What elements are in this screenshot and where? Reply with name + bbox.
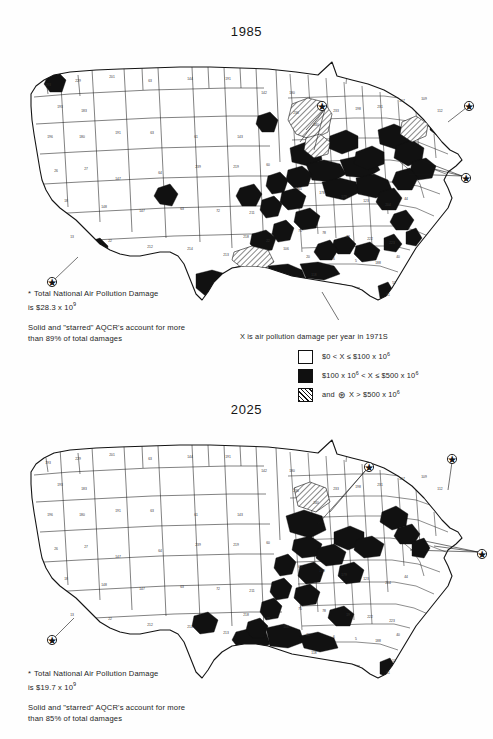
legend-heading: X is air pollution damage per year in 19… (240, 332, 493, 341)
legend-label-high-text: X > $500 x 10 (349, 391, 397, 400)
footnote-spacer (28, 693, 278, 702)
svg-text:63: 63 (150, 131, 154, 135)
svg-text:223: 223 (389, 619, 395, 623)
svg-text:218: 218 (243, 235, 249, 239)
svg-text:142: 142 (261, 91, 267, 95)
svg-text:233: 233 (333, 487, 339, 491)
svg-text:118: 118 (311, 273, 316, 277)
svg-text:180: 180 (79, 135, 85, 139)
svg-text:19: 19 (346, 235, 350, 239)
svg-text:239: 239 (195, 165, 201, 169)
svg-text:106: 106 (283, 247, 289, 251)
svg-text:19: 19 (346, 613, 350, 617)
svg-text:198: 198 (355, 485, 361, 489)
map-title-2025: 2025 (0, 400, 493, 420)
svg-text:★: ★ (366, 463, 372, 472)
svg-text:212: 212 (147, 245, 153, 249)
footnote-2025: *Total National Air Pollution Damage is … (28, 668, 278, 724)
legend-label-mid: $100 x 106 < X ≤ $500 x 106 (322, 370, 419, 380)
svg-text:78: 78 (322, 609, 326, 613)
us-aqcr-map-2025: ★ ★ ★ ★ 193229 (0, 420, 493, 698)
svg-text:236: 236 (293, 489, 299, 493)
svg-text:118: 118 (311, 651, 316, 655)
svg-text:5: 5 (355, 259, 357, 263)
svg-text:239: 239 (195, 543, 201, 547)
svg-text:183: 183 (81, 487, 87, 491)
svg-text:211: 211 (249, 211, 254, 215)
svg-text:22: 22 (108, 617, 112, 621)
legend-label-mid-text-b: < X ≤ $500 x 10 (359, 372, 415, 381)
svg-text:213: 213 (223, 253, 229, 257)
svg-text:72: 72 (216, 587, 220, 591)
svg-text:144: 144 (187, 455, 193, 459)
svg-text:★: ★ (449, 455, 455, 464)
star-marker: ★ (477, 549, 486, 559)
svg-text:6: 6 (333, 635, 335, 639)
star-marker: ★ (364, 462, 373, 472)
us-aqcr-map-1985: ★ ★ ★ ★ ★ (0, 42, 493, 320)
legend-items: $0 < X ≤ $100 x 106 $100 x 106 < X ≤ $50… (298, 347, 493, 404)
svg-text:109: 109 (421, 97, 427, 101)
svg-text:191: 191 (225, 77, 231, 81)
legend-star-icon: ⊛ (338, 390, 346, 400)
svg-text:63: 63 (180, 207, 184, 211)
svg-text:63: 63 (148, 79, 152, 83)
svg-text:26: 26 (54, 169, 58, 173)
svg-text:109: 109 (421, 475, 427, 479)
svg-text:214: 214 (187, 247, 193, 251)
svg-text:112: 112 (437, 109, 442, 113)
svg-text:240: 240 (313, 501, 319, 505)
svg-text:75: 75 (298, 607, 302, 611)
svg-text:204: 204 (385, 203, 391, 207)
map-panel-1985: 1985 (0, 22, 493, 322)
svg-text:183: 183 (81, 109, 87, 113)
footnote-amount-text: is $19.7 x 10 (28, 683, 73, 692)
legend-item-mid: $100 x 106 < X ≤ $500 x 106 (298, 366, 493, 385)
star-marker: ★ (317, 101, 326, 111)
star-marker: ★ (464, 101, 473, 111)
svg-text:22: 22 (266, 617, 270, 621)
svg-text:112: 112 (437, 487, 442, 491)
svg-text:240: 240 (313, 123, 319, 127)
footnote-star-marker: * (28, 289, 31, 298)
svg-text:44: 44 (404, 197, 408, 201)
svg-text:148: 148 (101, 583, 107, 587)
legend-label-high-prefix: and (322, 391, 335, 400)
star-marker: ★ (461, 173, 470, 183)
svg-text:147: 147 (115, 555, 121, 559)
svg-text:72: 72 (216, 209, 220, 213)
svg-text:179: 179 (341, 573, 347, 577)
svg-text:65: 65 (298, 565, 302, 569)
legend-label-high: and⊛X > $500 x 106 (322, 389, 400, 399)
footnote-line-total: *Total National Air Pollution Damage (28, 288, 278, 299)
svg-text:213: 213 (223, 631, 229, 635)
svg-text:223: 223 (389, 241, 395, 245)
svg-text:222: 222 (367, 615, 373, 619)
footnote-spacer (28, 313, 278, 322)
star-marker: ★ (47, 635, 56, 645)
svg-text:144: 144 (187, 77, 193, 81)
svg-text:★: ★ (479, 550, 485, 559)
svg-text:27: 27 (84, 545, 88, 549)
svg-text:180: 180 (289, 469, 295, 473)
svg-text:63: 63 (150, 509, 154, 513)
svg-text:61: 61 (194, 135, 198, 139)
svg-text:78: 78 (322, 231, 326, 235)
svg-text:201: 201 (109, 75, 115, 79)
svg-text:51: 51 (386, 293, 390, 297)
svg-text:5: 5 (355, 637, 357, 641)
svg-text:13: 13 (70, 235, 74, 239)
map-panel-2025: 2025 (0, 400, 493, 700)
svg-text:178: 178 (319, 191, 325, 195)
legend-label-low: $0 < X ≤ $100 x 106 (322, 351, 390, 361)
svg-text:27: 27 (84, 167, 88, 171)
svg-text:60: 60 (266, 541, 270, 545)
svg-text:179: 179 (341, 195, 347, 199)
svg-text:40: 40 (396, 255, 400, 259)
legend-label-high-exponent: 6 (397, 389, 400, 395)
footnote-amount-exponent: 9 (73, 301, 76, 307)
svg-text:229: 229 (75, 457, 81, 461)
footnote-star-marker: * (28, 669, 31, 678)
svg-text:201: 201 (109, 453, 115, 457)
svg-text:193: 193 (45, 461, 51, 465)
